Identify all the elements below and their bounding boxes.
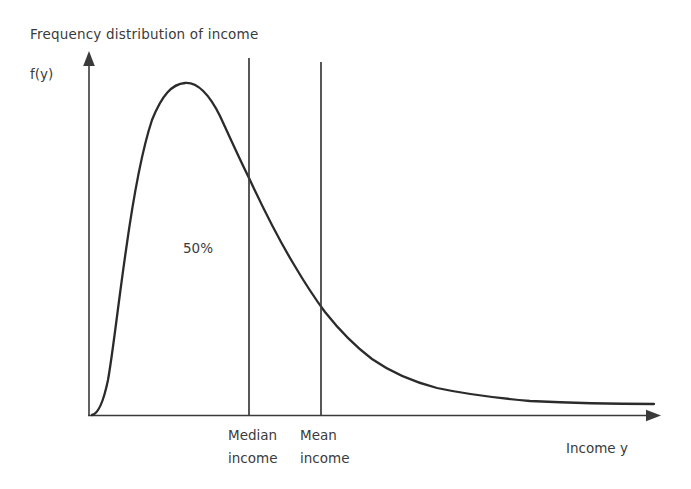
chart-canvas: Frequency distribution of income f(y) Me… — [0, 0, 691, 489]
y-axis-label: f(y) — [30, 66, 53, 82]
mean-label-line2: income — [300, 450, 349, 466]
frequency-distribution-figure: Frequency distribution of income f(y) Me… — [0, 0, 691, 489]
mean-label-line1: Mean — [300, 427, 337, 443]
median-label-line1: Median — [228, 427, 277, 443]
median-label-line2: income — [228, 450, 277, 466]
chart-title: Frequency distribution of income — [30, 26, 258, 42]
x-axis-label: Income y — [566, 440, 628, 456]
area-annotation-50-percent: 50% — [183, 240, 213, 256]
